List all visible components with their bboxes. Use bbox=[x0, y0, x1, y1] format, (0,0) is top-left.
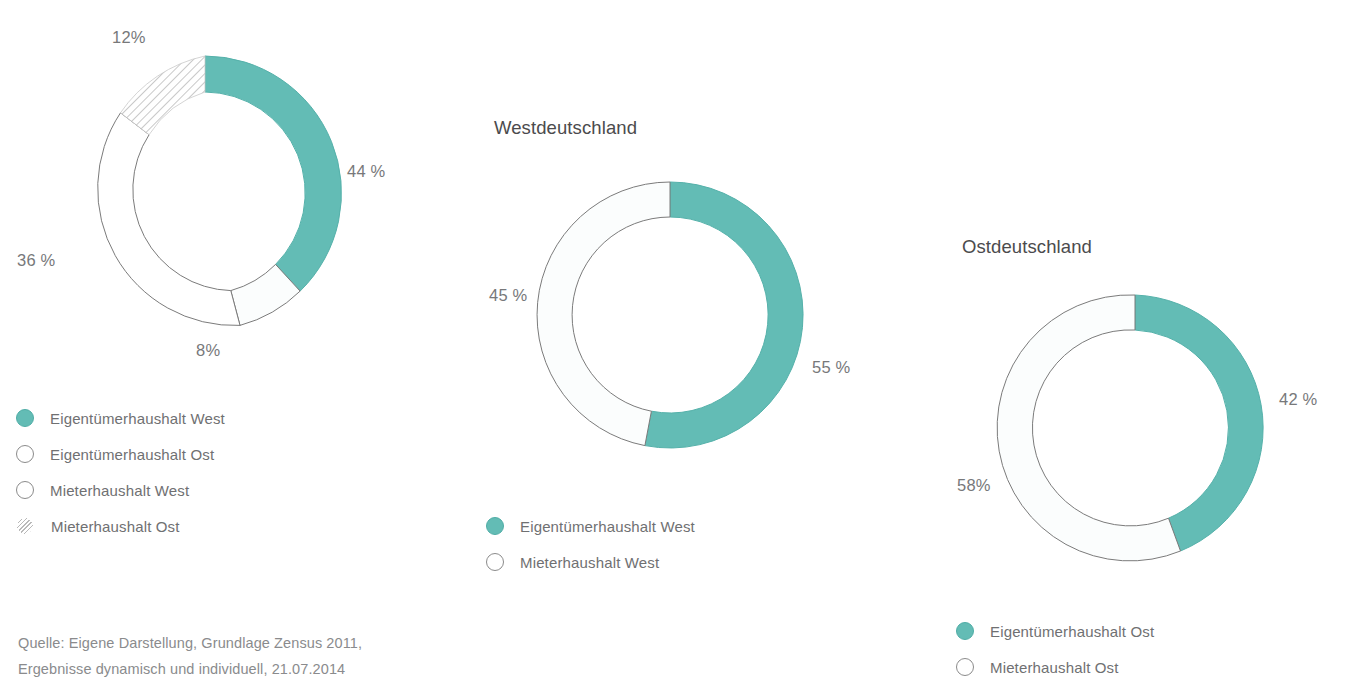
legend-label: Mieterhaushalt Ost bbox=[990, 659, 1119, 676]
legend-label: Mieterhaushalt West bbox=[520, 554, 659, 571]
legend-ost: Eigentümerhaushalt Ost Mieterhaushalt Os… bbox=[956, 613, 1154, 685]
donut-segment-mieter-ost bbox=[997, 295, 1180, 561]
legend-marker-hollow-circle-icon bbox=[956, 658, 974, 676]
percent-label-42: 42 % bbox=[1279, 390, 1317, 409]
chart-title-westdeutschland: Westdeutschland bbox=[494, 117, 637, 139]
legend-marker-hatched-circle-icon bbox=[17, 518, 33, 534]
legend-marker-filled-circle-icon bbox=[16, 409, 34, 427]
donut-segment-mieter-ost bbox=[121, 56, 206, 135]
legend-label: Eigentümerhaushalt Ost bbox=[50, 446, 214, 463]
legend-item-mieter-ost: Mieterhaushalt Ost bbox=[16, 508, 225, 544]
donut-chart-west bbox=[530, 175, 810, 455]
legend-item-mieter-west: Mieterhaushalt West bbox=[16, 472, 225, 508]
source-note-line-2: Ergebnisse dynamisch und individuell, 21… bbox=[18, 656, 362, 682]
legend-marker-hollow-circle-icon bbox=[16, 445, 34, 463]
percent-label-44: 44 % bbox=[347, 162, 385, 181]
donut-west-svg bbox=[530, 175, 810, 455]
donut-segment-eigentuemer-ost bbox=[1135, 295, 1263, 551]
donut-chart-combined bbox=[60, 48, 350, 338]
percent-label-8: 8% bbox=[196, 341, 220, 360]
legend-item-eigentuemer-west: Eigentümerhaushalt West bbox=[16, 400, 225, 436]
donut-ost-svg bbox=[995, 288, 1275, 568]
percent-label-58: 58% bbox=[957, 476, 991, 495]
legend-item-eigentuemer-west: Eigentümerhaushalt West bbox=[486, 508, 695, 544]
donut-segment-mieter-west bbox=[98, 113, 240, 326]
chart-title-ostdeutschland: Ostdeutschland bbox=[962, 236, 1092, 258]
legend-item-eigentuemer-ost: Eigentümerhaushalt Ost bbox=[16, 436, 225, 472]
donut-segment-eigentuemer-west bbox=[645, 182, 803, 448]
legend-west: Eigentümerhaushalt West Mieterhaushalt W… bbox=[486, 508, 695, 580]
legend-label: Eigentümerhaushalt West bbox=[520, 518, 695, 535]
legend-item-mieter-ost: Mieterhaushalt Ost bbox=[956, 649, 1154, 685]
legend-label: Mieterhaushalt West bbox=[50, 482, 189, 499]
percent-label-12: 12% bbox=[112, 28, 146, 47]
legend-marker-filled-circle-icon bbox=[956, 622, 974, 640]
donut-segment-eigentuemer-west bbox=[205, 56, 341, 291]
legend-marker-hollow-circle-icon bbox=[16, 481, 34, 499]
percent-label-36: 36 % bbox=[17, 251, 55, 270]
legend-combined: Eigentümerhaushalt West Eigentümerhausha… bbox=[16, 400, 225, 544]
legend-label: Mieterhaushalt Ost bbox=[51, 518, 180, 535]
donut-segment-mieter-west bbox=[537, 182, 670, 446]
legend-label: Eigentümerhaushalt West bbox=[50, 410, 225, 427]
legend-marker-filled-circle-icon bbox=[486, 517, 504, 535]
legend-marker-hollow-circle-icon bbox=[486, 553, 504, 571]
percent-label-45: 45 % bbox=[489, 286, 527, 305]
legend-label: Eigentümerhaushalt Ost bbox=[990, 623, 1154, 640]
legend-item-mieter-west: Mieterhaushalt West bbox=[486, 544, 695, 580]
source-note-line-1: Quelle: Eigene Darstellung, Grundlage Ze… bbox=[18, 630, 362, 656]
donut-combined-svg bbox=[60, 48, 350, 338]
percent-label-55: 55 % bbox=[812, 358, 850, 377]
legend-item-eigentuemer-ost: Eigentümerhaushalt Ost bbox=[956, 613, 1154, 649]
source-note: Quelle: Eigene Darstellung, Grundlage Ze… bbox=[18, 630, 362, 682]
donut-chart-ost bbox=[995, 288, 1275, 568]
